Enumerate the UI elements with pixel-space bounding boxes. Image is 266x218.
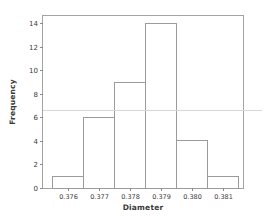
x-tick-label: 0.379 [152,193,171,201]
histogram-figure: 024681012140.3760.3770.3780.3790.3800.38… [0,0,266,218]
histogram-bar [146,23,177,188]
x-tick-label: 0.378 [121,193,140,201]
y-tick-label: 0 [34,185,38,193]
histogram-bar [208,176,239,188]
y-tick-label: 14 [29,20,38,28]
y-axis-title: Frequency [8,72,18,132]
x-tick-label: 0.380 [183,193,202,201]
histogram-bar [177,141,208,188]
histogram-bar [53,176,84,188]
x-axis-title: Diameter [93,203,193,212]
y-tick-label: 8 [34,91,38,99]
y-tick-label: 10 [29,67,38,75]
y-tick-label: 12 [29,44,38,52]
x-tick-label: 0.377 [90,193,109,201]
y-tick-label: 4 [34,138,39,146]
histogram-bar [115,82,146,188]
histogram-chart: 024681012140.3760.3770.3780.3790.3800.38… [0,0,266,218]
y-tick-label: 2 [34,161,38,169]
histogram-bar [84,117,115,188]
x-tick-label: 0.381 [214,193,233,201]
x-tick-label: 0.376 [59,193,78,201]
y-tick-label: 6 [34,114,39,122]
